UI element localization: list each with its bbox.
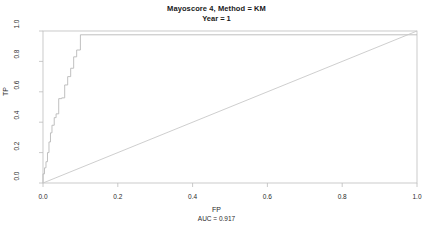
y-tick-label: 0.4 <box>13 111 20 131</box>
x-tick-label: 0.2 <box>103 193 133 200</box>
x-tick-label: 0.6 <box>252 193 282 200</box>
y-tick-label: 0.6 <box>13 80 20 100</box>
roc-curve <box>43 35 417 183</box>
auc-annotation: AUC = 0.917 <box>0 215 433 222</box>
y-tick-label: 1.0 <box>13 20 20 40</box>
plot-canvas <box>0 0 433 229</box>
x-tick-label: 0.0 <box>28 193 58 200</box>
roc-plot-figure: Mayoscore 4, Method = KM Year = 1 TP FP … <box>0 0 433 229</box>
reference-diagonal <box>43 31 417 183</box>
y-tick-label: 0.2 <box>13 141 20 161</box>
x-axis-label: FP <box>0 206 433 213</box>
x-tick-label: 0.4 <box>178 193 208 200</box>
y-tick-label: 0.8 <box>13 50 20 70</box>
y-tick-label: 0.0 <box>13 172 20 192</box>
x-tick-label: 1.0 <box>402 193 432 200</box>
y-axis-label: TP <box>2 87 9 96</box>
x-tick-label: 0.8 <box>327 193 357 200</box>
